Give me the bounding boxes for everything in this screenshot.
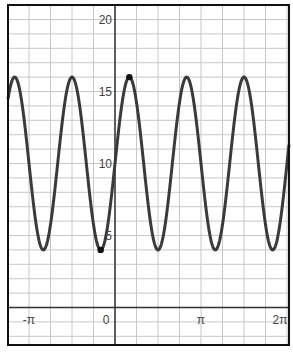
y-tick-label: 20 xyxy=(99,13,113,27)
y-tick-label: 10 xyxy=(99,157,113,171)
x-tick-label: 2π xyxy=(273,313,288,327)
y-tick-label: 5 xyxy=(105,229,112,243)
x-tick-label: 0 xyxy=(103,313,110,327)
x-tick-label: π xyxy=(197,313,205,327)
tick-labels: -π0π2π5101520 xyxy=(23,13,288,327)
y-tick-label: 15 xyxy=(99,85,113,99)
data-point xyxy=(126,74,132,80)
x-tick-label: -π xyxy=(23,313,35,327)
data-point xyxy=(97,247,103,253)
function-graph: -π0π2π5101520 xyxy=(0,0,293,356)
grid-lines xyxy=(8,5,289,345)
